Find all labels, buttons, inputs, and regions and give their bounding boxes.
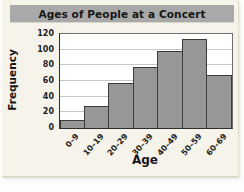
y-tick-label: 60 xyxy=(43,76,54,85)
y-tick-label: 40 xyxy=(43,91,54,100)
histogram-bar xyxy=(60,120,85,128)
histogram-bar xyxy=(108,83,134,128)
y-axis-ticks: 020406080100120 xyxy=(28,33,56,127)
y-tick-label: 0 xyxy=(48,123,54,132)
y-axis-title-text: Frequency xyxy=(6,49,18,110)
histogram-bar xyxy=(84,106,110,128)
y-axis-title: Frequency xyxy=(5,33,19,127)
histogram-bar xyxy=(157,51,183,128)
y-tick-label: 80 xyxy=(43,60,54,69)
chart-title: Ages of People at a Concert xyxy=(38,8,205,20)
histogram-bar xyxy=(182,39,208,128)
y-tick-label: 20 xyxy=(43,107,54,116)
figure-card: Ages of People at a Concert Frequency 02… xyxy=(2,0,239,177)
y-tick-label: 120 xyxy=(37,29,54,38)
chart-title-bar: Ages of People at a Concert xyxy=(10,5,234,22)
histogram-bar xyxy=(206,75,232,128)
x-tick-label: 0–9 xyxy=(64,132,81,149)
plot-area xyxy=(59,33,233,129)
y-tick-label: 100 xyxy=(37,44,54,53)
x-axis-title: Age xyxy=(59,153,231,167)
histogram-bar xyxy=(133,67,159,128)
